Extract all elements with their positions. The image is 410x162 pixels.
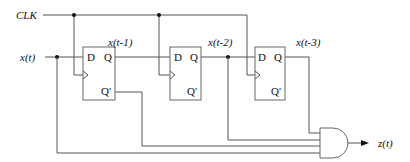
ff3-q-wire [285,57,320,133]
flip-flop-2: D Q Q' [170,47,201,100]
ff2-q-pin: Q [190,51,198,63]
ff2-d-pin: D [174,51,182,63]
ff1-q-pin: Q [104,51,112,63]
ff3-d-pin: D [258,51,266,63]
signal-x-t-3: x(t-3) [295,36,321,49]
and-gate [320,128,348,158]
signal-x-t-1: x(t-1) [107,36,133,49]
ff3-qn-pin: Q' [271,85,281,97]
signal-x-t-2: x(t-2) [207,36,233,49]
ff2-qn-pin: Q' [187,85,197,97]
ff3-q-pin: Q [274,51,282,63]
flip-flop-3: D Q Q' [255,47,285,100]
output-label: z(t) [377,137,393,150]
arrow-right-icon [361,140,369,146]
input-label: x(t) [19,51,36,64]
ff1-qn-pin: Q' [101,85,111,97]
circuit-diagram: D Q Q' x(t-1) D Q Q' x(t-2) D Q Q' x(t-3… [0,0,410,162]
ff1-d-pin: D [87,51,95,63]
clk-label: CLK [16,9,37,21]
flip-flop-1: D Q Q' [83,47,115,100]
ff1-qn-wire [115,92,320,146]
